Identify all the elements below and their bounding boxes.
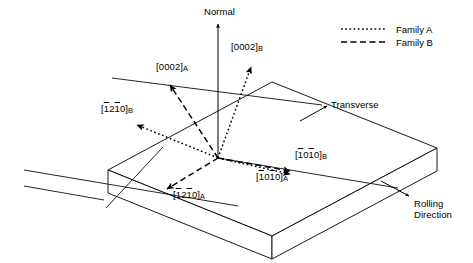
- legend-item-family-a: Family A: [341, 23, 432, 35]
- legend-swatch-dotted: [341, 28, 387, 30]
- family-subscript: A: [183, 64, 188, 73]
- legend-label-family-a: Family A: [396, 24, 432, 35]
- rolling-direction-label-line1: Rolling: [414, 198, 443, 209]
- vector-label-0002-a: [0002]A: [156, 61, 188, 73]
- transverse-axis-label: Transverse: [331, 99, 379, 110]
- rolling-guide-line-lower: [24, 186, 104, 200]
- rolling-direction-label-line2: Direction: [414, 209, 452, 220]
- vector-label-1210-a: [1210]A: [173, 189, 205, 201]
- miller-digits: 0002: [234, 41, 256, 52]
- vector-label-1010-b: [1010]B: [295, 149, 327, 161]
- vector-label-0002-b: [0002]B: [231, 41, 263, 53]
- family-subscript: B: [322, 152, 327, 161]
- miller-digits: 0002: [159, 61, 181, 72]
- crystallographic-texture-figure: Normal Transverse Rolling Direction [000…: [0, 0, 473, 263]
- legend-swatch-dashed: [341, 41, 387, 43]
- family-subscript: B: [258, 44, 263, 53]
- family-subscript: A: [283, 174, 288, 183]
- family-subscript: A: [200, 192, 205, 201]
- rolling-direction-label: Rolling Direction: [414, 198, 473, 220]
- legend-label-family-b: Family B: [396, 37, 433, 48]
- legend-item-family-b: Family B: [341, 36, 433, 48]
- vector-label-1210-b: [1210]B: [101, 103, 133, 115]
- normal-axis-label: Normal: [204, 6, 235, 17]
- family-subscript: B: [128, 106, 133, 115]
- vector-label-1010-a: [1010]A: [256, 171, 288, 183]
